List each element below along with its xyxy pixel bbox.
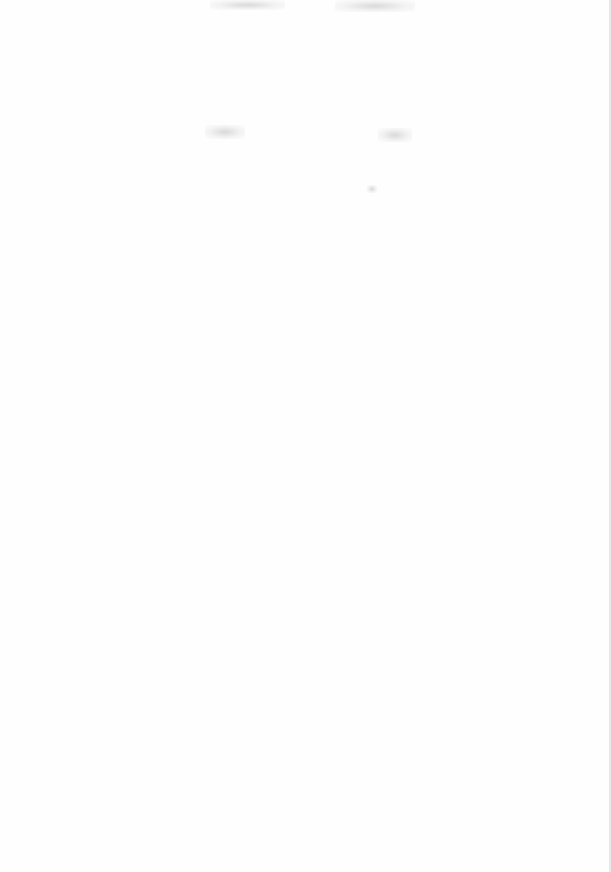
bleed-through-mark-dot <box>367 185 377 193</box>
bleed-through-mark-mid-left <box>205 125 245 139</box>
bleed-through-mark-top-left <box>210 0 285 10</box>
bleed-through-mark-mid-right <box>378 128 412 142</box>
scanned-page <box>0 0 611 872</box>
bleed-through-mark-top-right <box>335 0 415 12</box>
